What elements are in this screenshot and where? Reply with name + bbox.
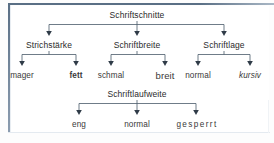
node-root-schriftschnitte: Schriftschnitte [110, 10, 165, 21]
node-leaf-normal-lage: normal [185, 70, 211, 81]
label-layer: Schriftschnitte Strichstärke Schriftbrei… [0, 0, 274, 143]
node-group-schriftlage: Schriftlage [203, 40, 244, 51]
figure-container: Schriftschnitte Strichstärke Schriftbrei… [0, 0, 274, 143]
node-leaf-mager: mager [10, 70, 34, 81]
node-leaf-kursiv: kursiv [239, 70, 261, 81]
node-leaf-schmal: schmal [98, 70, 125, 81]
node-leaf-eng: eng [72, 119, 86, 130]
node-leaf-gesperrt: gesperrt [176, 119, 217, 130]
node-group-schriftbreite: Schriftbreite [114, 40, 161, 51]
node-group-schriftlaufweite: Schriftlaufweite [107, 89, 166, 100]
node-leaf-fett: fett [69, 70, 82, 81]
node-group-strichstaerke: Strichstärke [26, 40, 72, 51]
node-leaf-normal-laufweite: normal [124, 119, 150, 130]
node-leaf-breit: breit [156, 70, 175, 81]
